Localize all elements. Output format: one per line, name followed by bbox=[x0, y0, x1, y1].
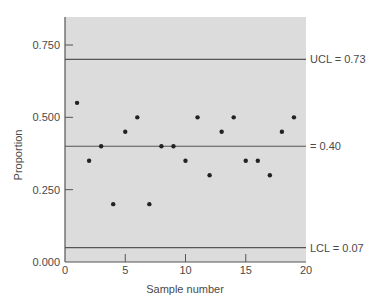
data-point bbox=[183, 159, 187, 163]
x-tick-label: 20 bbox=[300, 264, 312, 276]
data-point bbox=[171, 144, 175, 148]
center-label: = 0.40 bbox=[310, 140, 341, 152]
data-point bbox=[292, 115, 296, 119]
data-point bbox=[244, 159, 248, 163]
data-point bbox=[87, 159, 91, 163]
x-tick-label: 0 bbox=[62, 264, 68, 276]
y-tick-label: 0.750 bbox=[32, 39, 60, 51]
y-tick-label: 0.000 bbox=[32, 256, 60, 268]
data-point bbox=[195, 115, 199, 119]
data-point bbox=[219, 130, 223, 134]
data-point bbox=[111, 202, 115, 206]
y-tick-label: 0.500 bbox=[32, 111, 60, 123]
data-point bbox=[147, 202, 151, 206]
data-point bbox=[232, 115, 236, 119]
data-point bbox=[75, 101, 79, 105]
data-point bbox=[268, 173, 272, 177]
lcl-label: LCL = 0.07 bbox=[310, 242, 364, 254]
y-axis-label: Proportion bbox=[12, 130, 24, 181]
data-point bbox=[159, 144, 163, 148]
data-point bbox=[135, 115, 139, 119]
plot-area bbox=[65, 17, 306, 262]
data-point bbox=[207, 173, 211, 177]
p-chart: UCL = 0.73= 0.40LCL = 0.07 0.0000.2500.5… bbox=[0, 0, 374, 305]
data-point bbox=[99, 144, 103, 148]
x-tick-label: 15 bbox=[240, 264, 252, 276]
data-point bbox=[123, 130, 127, 134]
y-tick-label: 0.250 bbox=[32, 184, 60, 196]
data-point bbox=[280, 130, 284, 134]
ucl-label: UCL = 0.73 bbox=[310, 53, 366, 65]
x-tick-label: 5 bbox=[122, 264, 128, 276]
x-axis-label: Sample number bbox=[146, 283, 224, 295]
data-point bbox=[256, 159, 260, 163]
x-tick-label: 10 bbox=[179, 264, 191, 276]
